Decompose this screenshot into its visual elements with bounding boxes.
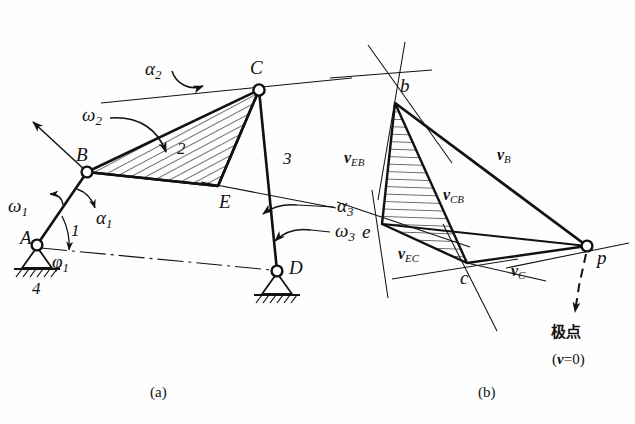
omega-2-label: ω2 — [82, 105, 102, 128]
omega-3-label: ω3 — [335, 221, 355, 244]
polygon-label-p: p — [597, 248, 607, 267]
joint-label-A: A — [20, 228, 32, 247]
pole-callout-arrow — [575, 254, 586, 312]
joint-label-B: B — [76, 145, 88, 164]
omega-1-label: ω1 — [8, 196, 28, 219]
vector-label-v-C: vC — [511, 263, 525, 281]
joint-A — [32, 240, 43, 251]
omega-3-arc-arrow — [275, 229, 330, 241]
figure-canvas: A B C D E 1 2 3 4 ω1 α1 φ1 ω2 α2 ω3 α3 b… — [0, 0, 635, 424]
link-label-4: 4 — [32, 280, 41, 297]
alpha-1-label: α1 — [96, 208, 112, 231]
velocity-image-triangle — [382, 103, 467, 263]
link-4-frame-centerline — [41, 248, 272, 270]
alpha-2-label: α2 — [145, 59, 161, 82]
caption-a: (a) — [150, 385, 167, 400]
joint-D — [272, 266, 283, 277]
vector-label-v-CB: vCB — [443, 187, 464, 205]
pole-value-label: (v=0) — [552, 352, 585, 367]
pole-label: 极点 — [551, 325, 581, 340]
polygon-label-b: b — [400, 76, 410, 95]
alpha-3-label: α3 — [337, 196, 353, 219]
omega-1-arc-arrow — [50, 194, 63, 205]
phi-1-angle-arc — [62, 216, 69, 250]
alpha-2-arc-arrow — [172, 71, 203, 88]
phi-1-label: φ1 — [52, 252, 69, 275]
link-label-1: 1 — [71, 222, 80, 239]
construction-lines — [330, 42, 629, 331]
polygon-label-c: c — [460, 268, 468, 287]
vector-label-v-B: vB — [497, 147, 511, 165]
vector-label-v-EB: vEB — [344, 150, 364, 168]
joint-B — [82, 167, 93, 178]
reference-line-through-C — [101, 78, 352, 103]
alpha-1-arc-arrow — [77, 189, 95, 208]
link-label-3: 3 — [283, 150, 292, 167]
alpha-3-arc-arrow — [263, 205, 297, 214]
joint-C — [253, 84, 264, 95]
link-label-2: 2 — [177, 140, 186, 157]
joint-label-E: E — [219, 192, 231, 211]
vector-label-v-EC: vEC — [398, 246, 419, 264]
link-3-rocker — [259, 90, 277, 271]
joint-label-D: D — [289, 258, 303, 277]
pole-point-p — [582, 241, 593, 252]
link-1-crank — [37, 172, 87, 245]
joint-label-C: C — [250, 58, 263, 77]
link-2-hatched-body — [87, 90, 259, 186]
caption-b: (b) — [478, 385, 496, 400]
polygon-label-e: e — [362, 222, 370, 241]
